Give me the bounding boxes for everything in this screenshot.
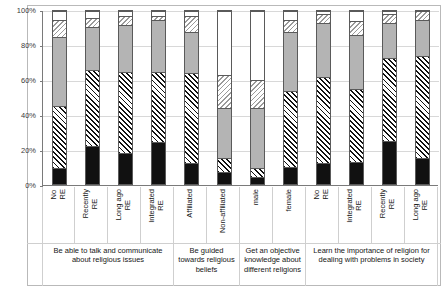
gridline [43, 11, 439, 12]
bar-segment [350, 11, 363, 21]
bar-segment [350, 35, 363, 89]
x-axis-label: Integrated RE [148, 189, 165, 223]
group-heading-label: Be able to talk and communicate about re… [45, 246, 171, 265]
x-axis-label-cell: Long ago RE [405, 187, 438, 244]
bar [217, 10, 232, 185]
x-axis-label-cell: No RE [306, 187, 339, 244]
bar-segment [119, 153, 132, 184]
bar-segment [251, 168, 264, 177]
y-tick-mark [40, 11, 43, 12]
bar-segment [317, 163, 330, 184]
bar [151, 10, 166, 185]
bar-segment [86, 11, 99, 18]
x-axis-label: Long ago RE [412, 189, 429, 220]
y-tick-label: 60% [0, 77, 36, 85]
bar-segment [218, 172, 231, 184]
bar-segment [218, 108, 231, 158]
x-axis-label: Non-affiliated [219, 189, 228, 233]
bar-segment [284, 11, 297, 20]
bar [52, 10, 67, 185]
group-heading-cell: Get an objective knowledge about differe… [240, 244, 306, 286]
bar-segment [383, 14, 396, 23]
bar-segment [251, 11, 264, 80]
bar-segment [284, 32, 297, 91]
bar-segment [251, 80, 264, 108]
bar-segment [53, 20, 66, 37]
bar-segment [86, 70, 99, 146]
y-tick-label: 100% [0, 7, 36, 15]
bar-segment [251, 108, 264, 169]
x-axis-label-cell: male [240, 187, 273, 244]
group-heading-label: Be guided towards religious beliefs [176, 246, 237, 274]
y-tick-label: 80% [0, 42, 36, 50]
bar-segment [383, 23, 396, 58]
bar-segment [350, 21, 363, 35]
bar-segment [251, 177, 264, 184]
x-axis-label-cell: Affiliated [174, 187, 207, 244]
bar-segment [152, 72, 165, 143]
bar-segment [218, 11, 231, 75]
bar-segment [185, 163, 198, 184]
x-axis-label: No RE [50, 189, 67, 199]
bar-segment [53, 11, 66, 20]
bar-segment [86, 146, 99, 184]
group-heading-cell: Be able to talk and communicate about re… [42, 244, 174, 286]
x-axis-label: Long ago RE [115, 189, 132, 220]
group-heading-cell: Be guided towards religious beliefs [174, 244, 240, 286]
bar [184, 10, 199, 185]
bar-segment [284, 91, 297, 167]
bar-segment [317, 14, 330, 23]
plot-area [42, 11, 438, 186]
x-axis-label: Recently RE [379, 189, 396, 218]
bar [118, 10, 133, 185]
bar-segment [218, 158, 231, 172]
group-heading-label: Get an objective knowledge about differe… [242, 246, 303, 274]
bar [85, 10, 100, 185]
gridline [43, 81, 439, 82]
x-axis-label-cell: Integrated RE [141, 187, 174, 244]
bar-segment [53, 168, 66, 184]
bar [283, 10, 298, 185]
y-tick-label: 0% [0, 182, 36, 190]
bar-segment [152, 142, 165, 184]
bar-segment [218, 75, 231, 108]
x-axis-label-cell: Integrated RE [339, 187, 372, 244]
bar-segment [185, 73, 198, 163]
bar-segment [185, 16, 198, 32]
bar-segment [86, 27, 99, 70]
gridline [43, 46, 439, 47]
gridline [43, 151, 439, 152]
bar-segment [350, 89, 363, 162]
bar [316, 10, 331, 185]
bar-segment [185, 32, 198, 74]
bar-segment [86, 18, 99, 27]
bar [415, 10, 430, 185]
bar-segment [284, 167, 297, 184]
gridline [43, 116, 439, 117]
x-axis-label-cell: Non-affiliated [207, 187, 240, 244]
x-axis-label: Integrated RE [346, 189, 363, 223]
bar-segment [119, 72, 132, 153]
group-heading-cell: Learn the importance of religion for dea… [306, 244, 438, 286]
bar-segment [119, 25, 132, 72]
chart-figure: 0%20%40%60%80%100% No RERecently RELong … [0, 0, 446, 298]
bar [250, 10, 265, 185]
y-tick-label: 40% [0, 112, 36, 120]
x-axis-label-cell: Long ago RE [108, 187, 141, 244]
bar-segment [416, 56, 429, 158]
bar-segment [416, 158, 429, 184]
x-axis-label-cell: Recently RE [75, 187, 108, 244]
x-axis-label-cell: No RE [42, 187, 75, 244]
bar-segment [284, 20, 297, 32]
bar-segment [152, 20, 165, 72]
bar-segment [317, 23, 330, 77]
y-tick-mark [40, 116, 43, 117]
y-tick-label: 20% [0, 147, 36, 155]
bar-segment [416, 20, 429, 56]
x-axis-label: Affiliated [186, 189, 195, 218]
x-axis-label: female [285, 189, 294, 212]
bar-segment [383, 58, 396, 141]
bar [349, 10, 364, 185]
bar-segment [119, 16, 132, 25]
x-axis-label-cell: female [273, 187, 306, 244]
